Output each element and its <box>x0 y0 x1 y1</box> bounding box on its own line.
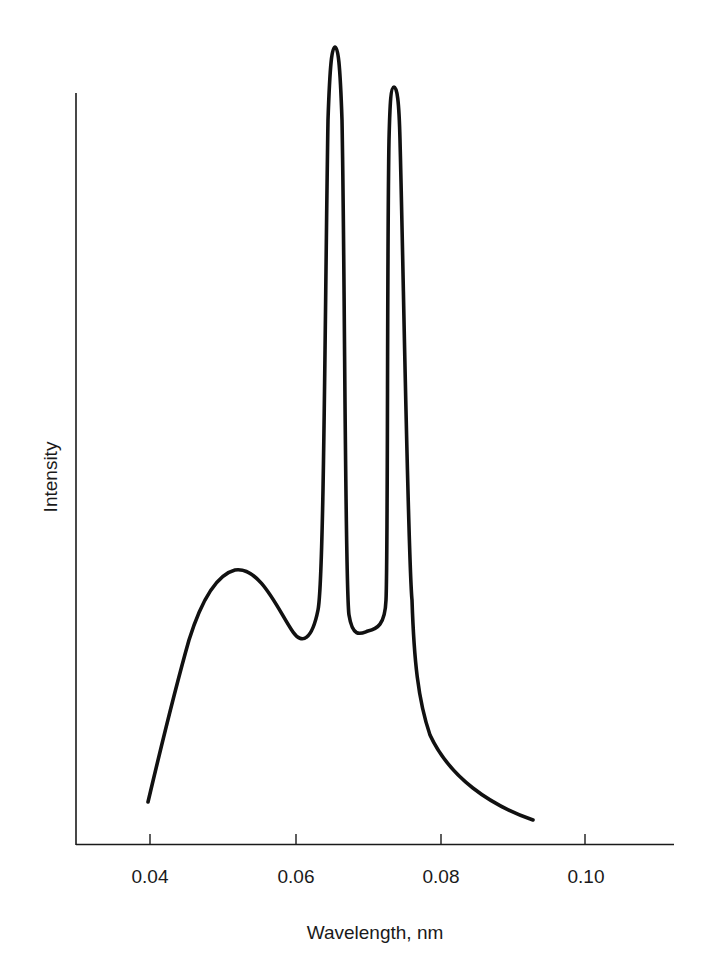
y-axis-label: Intensity <box>40 441 61 512</box>
spectrum-curve <box>148 47 533 820</box>
x-tick-label: 0.08 <box>423 866 460 887</box>
x-tick-label: 0.10 <box>568 866 605 887</box>
spectrum-chart: 0.04 0.06 0.08 0.10 Wavelength, nm Inten… <box>0 0 705 972</box>
x-tick-labels: 0.04 0.06 0.08 0.10 <box>132 866 605 887</box>
x-ticks <box>150 834 585 844</box>
x-tick-label: 0.06 <box>278 866 315 887</box>
x-axis-label: Wavelength, nm <box>307 922 444 943</box>
x-tick-label: 0.04 <box>132 866 169 887</box>
